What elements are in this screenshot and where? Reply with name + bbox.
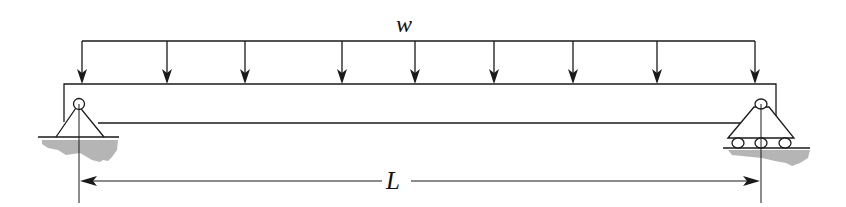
roller-icon [779,138,791,148]
roller-support-right [723,99,810,166]
beam-diagram [0,0,846,207]
roller-icon [732,138,744,148]
ground-hatch-right [728,150,810,166]
beam [64,84,776,122]
load-label: w [396,12,412,36]
distributed-load-arrows [77,41,760,84]
ground-hatch-left [42,140,118,162]
span-label: L [386,168,400,193]
